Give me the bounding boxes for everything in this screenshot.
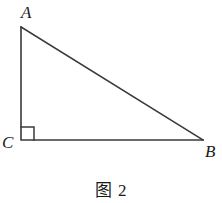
- triangle-hypotenuse: [21, 27, 203, 140]
- right-angle-marker-icon: [21, 127, 34, 140]
- right-triangle-diagram: [0, 0, 222, 203]
- vertex-label-c: C: [2, 134, 13, 151]
- figure-container: A B C 图 2: [0, 0, 222, 203]
- vertex-label-a: A: [21, 4, 31, 21]
- vertex-label-b: B: [205, 143, 215, 160]
- figure-caption: 图 2: [0, 181, 222, 201]
